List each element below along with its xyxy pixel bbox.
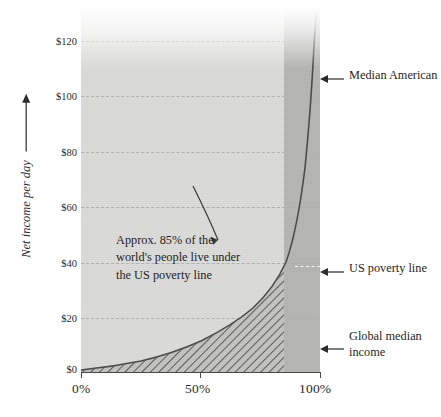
plot-area <box>81 8 320 372</box>
global-median-income-arrow-icon <box>320 340 344 350</box>
median-american-arrow-icon <box>320 70 344 80</box>
annotation-line-2: world's people live under <box>116 249 268 266</box>
y-tick-label-0: $0 <box>43 364 77 375</box>
plot-top-fade <box>81 8 320 68</box>
callout-global-median-line-1: Global median <box>349 329 422 345</box>
y-tick-label-120: $120 <box>43 36 77 47</box>
annotation-line-3: the US poverty line <box>116 267 268 284</box>
y-tick-label-60: $60 <box>43 202 77 213</box>
income-distribution-chart: Net income per day $120 $100 $80 $60 $40… <box>0 0 441 417</box>
annotation-line-1: Approx. 85% of the <box>116 232 268 249</box>
x-tick-label-100: 100% <box>299 381 331 397</box>
poverty-share-annotation: Approx. 85% of the world's people live u… <box>116 232 268 284</box>
x-tick-label-0: 0% <box>72 381 90 397</box>
callout-global-median-income: Global median income <box>349 329 422 361</box>
callout-us-poverty-line: US poverty line <box>349 261 427 277</box>
y-tick-label-40: $40 <box>43 258 77 269</box>
us-poverty-line-arrow-icon <box>320 263 344 273</box>
x-tick-0 <box>81 372 82 378</box>
y-tick-label-20: $20 <box>43 313 77 324</box>
y-axis-title-text: Net income per day <box>19 160 33 258</box>
y-tick-label-100: $100 <box>43 91 77 102</box>
callout-median-american: Median American <box>349 68 437 84</box>
x-tick-label-50: 50% <box>185 381 210 397</box>
us-poverty-line-marker <box>295 266 320 267</box>
y-tick-label-80: $80 <box>43 147 77 158</box>
x-tick-50 <box>200 372 201 378</box>
y-axis-title: Net income per day <box>19 98 35 258</box>
x-tick-100 <box>320 372 321 378</box>
callout-global-median-line-2: income <box>349 345 422 361</box>
up-arrow-icon <box>20 94 35 152</box>
